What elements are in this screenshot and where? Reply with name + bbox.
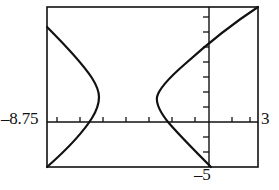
plot-frame <box>47 7 258 167</box>
x-axis-ticks <box>57 117 250 122</box>
y-axis-ticks <box>203 17 209 152</box>
graph-plot-svg <box>0 0 279 190</box>
curve-left-branch <box>47 27 99 167</box>
x-axis-min-label: –8.75 <box>1 110 38 127</box>
x-axis-max-label: 3 <box>261 110 269 127</box>
y-axis-min-label: –5 <box>194 166 211 183</box>
curve-right-branch <box>157 7 258 167</box>
graph-container: –8.75 3 –5 11 <box>0 0 279 190</box>
